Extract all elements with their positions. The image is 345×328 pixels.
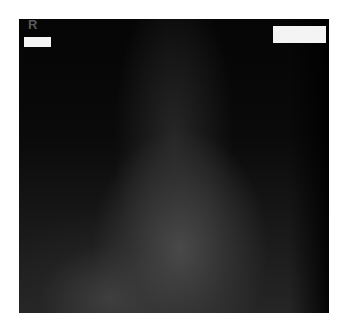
xray-image: [19, 19, 329, 313]
redaction-box-right: [273, 26, 326, 43]
orientation-marker: R: [28, 18, 37, 31]
redaction-box-left: [24, 37, 51, 47]
